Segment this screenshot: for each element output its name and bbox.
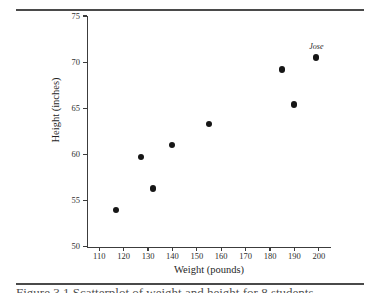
y-tick-mark <box>83 200 87 201</box>
y-tick-label: 60 <box>58 150 80 159</box>
y-axis-title: Height (inches) <box>50 40 61 180</box>
y-tick-mark <box>83 108 87 109</box>
y-tick-mark <box>83 62 87 63</box>
x-tick-label: 140 <box>159 252 185 261</box>
x-tick-label: 120 <box>111 252 137 261</box>
x-axis-title: Weight (pounds) <box>87 264 331 275</box>
y-tick-label: 50 <box>58 242 80 251</box>
y-axis-line <box>87 16 88 248</box>
figure-caption: Figure 3.1 Scatterplot of weight and hei… <box>16 285 364 293</box>
data-point <box>150 185 156 191</box>
y-tick-label: 65 <box>58 104 80 113</box>
x-tick-label: 180 <box>257 252 283 261</box>
x-tick-label: 150 <box>184 252 210 261</box>
data-point <box>279 66 285 72</box>
y-tick-label: 75 <box>58 12 80 21</box>
y-tick-mark <box>83 15 87 16</box>
data-point-label: Jose <box>309 42 323 51</box>
data-point <box>291 101 297 107</box>
data-point <box>206 121 212 127</box>
x-tick-label: 110 <box>86 252 112 261</box>
y-tick-mark <box>83 246 87 247</box>
x-tick-label: 190 <box>281 252 307 261</box>
x-tick-label: 170 <box>233 252 259 261</box>
data-point <box>113 207 119 213</box>
data-point <box>138 154 144 160</box>
data-point <box>313 54 319 60</box>
y-tick-label: 70 <box>58 58 80 67</box>
x-tick-label: 130 <box>135 252 161 261</box>
figure-container: 505560657075 110120130140150160170180190… <box>0 0 380 293</box>
x-tick-label: 200 <box>306 252 332 261</box>
data-point <box>169 142 175 148</box>
scatter-plot: 505560657075 110120130140150160170180190… <box>0 0 380 293</box>
y-tick-label: 55 <box>58 196 80 205</box>
y-tick-mark <box>83 154 87 155</box>
x-tick-label: 160 <box>208 252 234 261</box>
